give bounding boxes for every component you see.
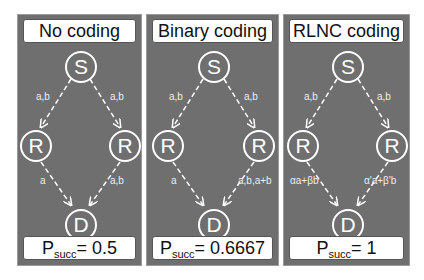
relay-left-node: R [152,130,184,162]
panel-binary-coding: Binary coding S R R D a,b a,b a a,b,a+b … [146,14,279,266]
success-probability: Psucc= 0.5 [23,236,136,260]
edge-label-s-left: a,b [36,91,50,102]
edge-label-s-left: a,b [169,91,183,102]
edge-label-right-d: α'a+β'b [364,175,396,186]
edge-label-s-right: a,b [244,91,258,102]
relay-right-node: R [109,130,141,162]
edge-label-right-d: a,b,a+b [238,175,272,186]
success-probability: Psucc= 0.6667 [152,236,273,260]
relay-left-node: R [20,130,52,162]
edge-label-right-d: a,b [110,175,124,186]
edge-label-s-left: a,b [304,91,318,102]
relay-right-node: R [243,130,275,162]
edge-label-left-d: αa+βb [290,175,319,186]
relay-right-node: R [376,130,408,162]
success-probability: Psucc= 1 [289,236,404,260]
source-node: S [65,51,97,83]
panel-no-coding: No coding S R R D a,b a,b a a,b Psucc= 0… [17,14,142,266]
edge-label-s-right: a,b [377,91,391,102]
edge-label-left-d: a [171,175,177,186]
source-node: S [332,51,364,83]
edge-label-left-d: a [40,175,46,186]
source-node: S [198,51,230,83]
edge-label-s-right: a,b [110,91,124,102]
relay-left-node: R [287,130,319,162]
panel-rlnc-coding: RLNC coding S R R D a,b a,b αa+βb α'a+β'… [283,14,410,266]
